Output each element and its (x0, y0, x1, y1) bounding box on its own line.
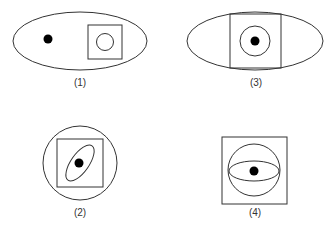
inner-square (88, 25, 122, 59)
figure-2: (2) (43, 126, 117, 218)
figure-4: (4) (222, 137, 287, 218)
diagram-canvas: (1) (3) (2) (4) (0, 0, 330, 226)
figure-label-1: (1) (74, 77, 86, 88)
black-dot (44, 35, 53, 44)
black-dot (250, 167, 259, 176)
figure-label-3: (3) (250, 77, 262, 88)
figure-label-2: (2) (74, 207, 86, 218)
inner-circle (97, 34, 114, 51)
figure-3: (3) (187, 12, 323, 88)
figure-1: (1) (13, 12, 147, 88)
black-dot (75, 159, 84, 168)
figure-label-4: (4) (249, 207, 261, 218)
black-dot (251, 37, 260, 46)
outer-ellipse (13, 12, 147, 70)
